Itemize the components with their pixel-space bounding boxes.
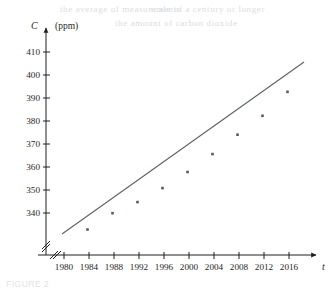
figure-caption: FIGURE 2 [6,279,49,289]
figure-root: the average of measurements scale of a c… [0,0,333,294]
data-point [161,187,164,190]
co2-scatter-chart: 410 400 390 380 370 360 350 340 1980 198… [0,0,333,294]
x-axis-label: t [322,261,325,272]
data-point [111,212,114,215]
x-tick-label: 1988 [105,262,124,272]
data-point [86,228,89,231]
y-tick-label: 350 [26,185,40,195]
regression-line [62,62,304,234]
x-tick-label: 2016 [280,262,299,272]
data-point [136,201,139,204]
x-tick-label: 2008 [230,262,249,272]
y-tick-label: 410 [26,47,40,57]
x-tick-label: 1992 [130,262,149,272]
data-point [186,171,189,174]
y-tick-label: 360 [26,162,40,172]
data-points [86,91,289,231]
data-point [286,91,289,94]
x-tick-label: 1980 [55,262,74,272]
x-tick-label: 1984 [80,262,99,272]
y-axis-tick-labels: 410 400 390 380 370 360 350 340 [26,47,40,218]
y-tick-label: 400 [26,70,40,80]
x-tick-label: 2004 [205,262,224,272]
y-tick-label: 370 [26,139,40,149]
data-point [261,115,264,118]
x-tick-label: 1996 [155,262,174,272]
data-point [236,133,239,136]
x-axis-tick-labels: 1980 1984 1988 1992 1996 2000 2004 2008 … [55,262,299,272]
y-tick-label: 390 [26,93,40,103]
y-tick-label: 340 [26,208,40,218]
x-tick-label: 2000 [180,262,199,272]
y-axis-unit-label: (ppm) [55,21,78,32]
y-axis-label: C [31,20,38,31]
data-point [211,153,214,156]
y-tick-label: 380 [26,116,40,126]
x-tick-label: 2012 [255,262,274,272]
